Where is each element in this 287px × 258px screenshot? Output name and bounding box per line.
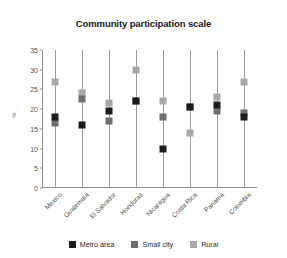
category-line-guatemala <box>82 50 83 188</box>
legend-swatch-icon <box>69 241 76 248</box>
x-axis-label-mexico: Mexico <box>44 191 64 211</box>
data-point-rural-honduras <box>133 66 140 73</box>
y-tick-mark-25 <box>40 89 42 90</box>
chart-container: Community participation scale % 05101520… <box>0 0 287 258</box>
x-axis-label-colombia: Colombia <box>227 191 252 216</box>
data-point-metro-area-nicaragua <box>159 145 166 152</box>
legend-item-metro-area[interactable]: Metro area <box>69 240 115 249</box>
y-tick-label-30: 30 <box>30 66 38 73</box>
legend-swatch-icon <box>190 241 197 248</box>
legend-swatch-icon <box>131 241 138 248</box>
x-axis-label-nicaragua: Nicaragua <box>145 191 171 217</box>
data-point-rural-costa-rica <box>186 129 193 136</box>
data-point-small-city-el-salvador <box>106 117 113 124</box>
data-point-rural-mexico <box>52 78 59 85</box>
category-line-costa-rica <box>190 50 191 188</box>
category-line-panama <box>217 50 218 188</box>
legend-item-small-city[interactable]: Small city <box>131 240 173 249</box>
data-point-rural-nicaragua <box>159 98 166 105</box>
x-axis-label-honduras: Honduras <box>119 191 144 216</box>
y-axis-label: % <box>11 112 17 117</box>
y-tick-mark-0 <box>40 188 42 189</box>
y-tick-label-15: 15 <box>30 125 38 132</box>
data-point-rural-panama <box>213 94 220 101</box>
data-point-rural-colombia <box>240 78 247 85</box>
legend-label: Rural <box>201 240 218 249</box>
y-axis-line <box>42 50 43 188</box>
y-tick-label-35: 35 <box>30 47 38 54</box>
y-tick-mark-15 <box>40 128 42 129</box>
x-axis-label-panama: Panama <box>202 191 224 213</box>
data-point-metro-area-el-salvador <box>106 108 113 115</box>
y-tick-label-10: 10 <box>30 145 38 152</box>
y-tick-mark-35 <box>40 50 42 51</box>
data-point-metro-area-colombia <box>240 114 247 121</box>
data-point-metro-area-guatemala <box>79 121 86 128</box>
chart-title: Community participation scale <box>0 18 287 29</box>
y-tick-mark-10 <box>40 148 42 149</box>
x-axis-label-guatemala: Guatemala <box>62 191 90 219</box>
x-axis-label-costa-rica: Costa Rica <box>170 191 198 219</box>
data-point-small-city-guatemala <box>79 96 86 103</box>
data-point-metro-area-honduras <box>133 98 140 105</box>
legend-label: Small city <box>142 240 173 249</box>
y-tick-label-0: 0 <box>34 185 38 192</box>
x-axis-line <box>42 187 257 188</box>
legend-label: Metro area <box>80 240 115 249</box>
legend-item-rural[interactable]: Rural <box>190 240 218 249</box>
y-tick-mark-20 <box>40 109 42 110</box>
y-tick-mark-5 <box>40 168 42 169</box>
x-axis-label-el-salvador: El Salvador <box>88 191 117 220</box>
y-tick-mark-30 <box>40 69 42 70</box>
data-point-metro-area-mexico <box>52 114 59 121</box>
data-point-rural-el-salvador <box>106 100 113 107</box>
data-point-metro-area-panama <box>213 102 220 109</box>
y-tick-label-5: 5 <box>34 165 38 172</box>
y-tick-label-20: 20 <box>30 106 38 113</box>
data-point-metro-area-costa-rica <box>186 104 193 111</box>
y-tick-label-25: 25 <box>30 86 38 93</box>
chart-legend: Metro areaSmall cityRural <box>0 240 287 249</box>
plot-area: 05101520253035 <box>42 50 257 188</box>
data-point-small-city-nicaragua <box>159 114 166 121</box>
